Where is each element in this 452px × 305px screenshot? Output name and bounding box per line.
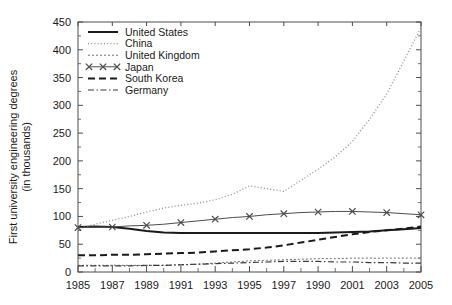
y-axis-title-group: First university engineering degrees (in… <box>7 69 32 244</box>
x-tick-label: 1997 <box>272 279 296 291</box>
y-tick-label: 0 <box>65 266 71 278</box>
legend-label: South Korea <box>125 72 184 84</box>
y-tick-label: 400 <box>53 44 71 56</box>
series-germany <box>78 261 421 265</box>
y-tick-label: 250 <box>53 127 71 139</box>
legend-item-south-korea[interactable]: South Korea <box>88 72 184 84</box>
chart-legend: United StatesChinaUnited KingdomJapanSou… <box>86 26 200 96</box>
legend-item-germany[interactable]: Germany <box>88 84 169 96</box>
y-tick-label: 100 <box>53 210 71 222</box>
legend-label: United Kingdom <box>125 49 200 61</box>
x-tick-label: 1995 <box>237 279 261 291</box>
x-tick-label: 1991 <box>169 279 193 291</box>
y-tick-label: 200 <box>53 155 71 167</box>
y-tick-label: 50 <box>59 238 71 250</box>
y-tick-label: 350 <box>53 72 71 84</box>
line-chart: First university engineering degrees (in… <box>0 0 452 305</box>
series-line <box>78 211 421 227</box>
legend-item-japan[interactable]: Japan <box>86 61 154 73</box>
x-tick-label: 1993 <box>203 279 227 291</box>
legend-item-china[interactable]: China <box>88 37 153 49</box>
y-axis-title-line1: First university engineering degrees <box>7 69 19 244</box>
legend-item-united-kingdom[interactable]: United Kingdom <box>88 49 200 61</box>
x-tick-label: 1985 <box>66 279 90 291</box>
chart-container: First university engineering degrees (in… <box>0 0 452 305</box>
legend-label: Germany <box>125 84 169 96</box>
x-tick-label: 1989 <box>134 279 158 291</box>
legend-item-united-states[interactable]: United States <box>88 26 188 38</box>
y-tick-label: 150 <box>53 183 71 195</box>
series-japan <box>75 208 424 231</box>
x-axis-ticks: 1985198719891991199319951997199020012003… <box>66 22 433 291</box>
x-tick-label: 2003 <box>374 279 398 291</box>
y-axis-ticks: 050100150200250300350400450 <box>53 16 421 278</box>
x-tick-label: 1990 <box>306 279 330 291</box>
y-tick-label: 300 <box>53 99 71 111</box>
x-tick-label: 1987 <box>100 279 124 291</box>
x-tick-label: 2005 <box>409 279 433 291</box>
series-line <box>78 258 421 265</box>
series-line <box>78 261 421 265</box>
y-axis-title-line2: (in thousands) <box>20 122 32 192</box>
y-tick-label: 450 <box>53 16 71 28</box>
x-tick-label: 2001 <box>340 279 364 291</box>
legend-label: United States <box>125 26 188 38</box>
legend-label: Japan <box>125 61 154 73</box>
series-united-kingdom <box>78 258 421 265</box>
legend-label: China <box>125 37 153 49</box>
